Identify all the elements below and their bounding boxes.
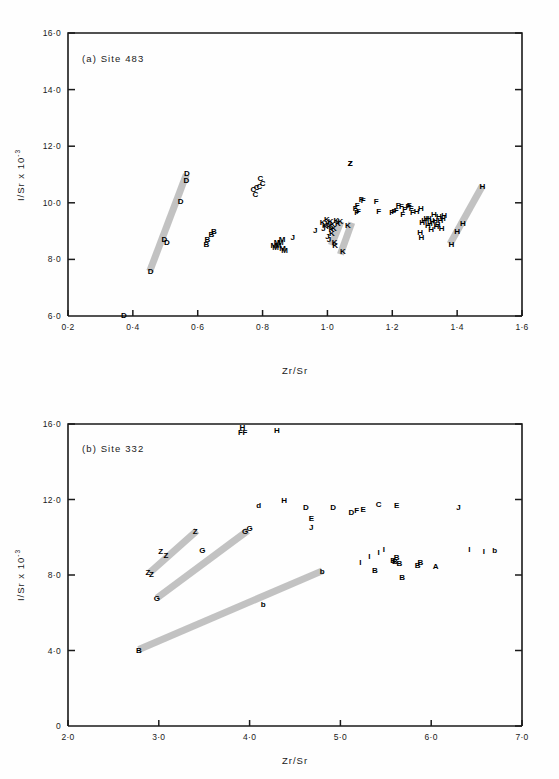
data-point-label: H bbox=[448, 240, 454, 249]
data-point-label: H bbox=[274, 426, 280, 435]
data-point-label: Z bbox=[149, 570, 154, 579]
x-tick-label: 0·2 bbox=[61, 322, 74, 332]
x-tick-label: 5·0 bbox=[334, 732, 347, 742]
x-tick-label: 4·0 bbox=[243, 732, 256, 742]
data-point-label: C bbox=[260, 179, 266, 188]
data-point-label: H bbox=[281, 496, 287, 505]
x-tick-label: 0·6 bbox=[191, 322, 204, 332]
data-point-label: E bbox=[394, 501, 400, 510]
x-tick-label: 1·4 bbox=[451, 322, 464, 332]
data-point-label: H bbox=[439, 224, 445, 233]
data-point-label: K bbox=[340, 247, 346, 256]
y-tick-label: 10·0 bbox=[43, 198, 61, 208]
data-point-label: E bbox=[360, 505, 366, 514]
data-point-label: B bbox=[399, 573, 405, 582]
panel-b-xaxis-title: Zr/Sr bbox=[282, 755, 308, 766]
data-point-label: J bbox=[291, 233, 295, 242]
x-tick-label: 2·0 bbox=[61, 732, 74, 742]
data-point-label: H bbox=[460, 219, 466, 228]
panel-a-yaxis-title-exponent: -3 bbox=[14, 149, 21, 157]
panel-b-title: (b) Site 332 bbox=[82, 443, 144, 454]
data-point-label: J bbox=[309, 523, 313, 532]
panel-site-483: 0·20·40·60·81·01·21·41·66·08·010·012·014… bbox=[0, 0, 559, 390]
data-point-label: Z bbox=[193, 527, 198, 536]
data-point-label: D bbox=[164, 238, 170, 247]
data-point-label: K bbox=[345, 221, 351, 230]
data-point-label: B bbox=[211, 227, 217, 236]
data-point-label: D bbox=[121, 311, 127, 320]
y-tick-label: 6·0 bbox=[48, 311, 61, 321]
y-tick-label: 8·0 bbox=[48, 570, 61, 580]
data-point-label: I bbox=[377, 548, 379, 557]
chart-b-svg: 2·03·04·05·06·07·004·08·012·016·0 HHFFdH… bbox=[0, 390, 559, 779]
annotation-label: Z bbox=[348, 159, 353, 168]
panel-a-xaxis-title: Zr/Sr bbox=[282, 365, 308, 376]
y-tick-label: 16·0 bbox=[43, 28, 61, 38]
x-tick-label: 7·0 bbox=[515, 732, 528, 742]
panel-b-yaxis-title-main: I/Sr x 10 bbox=[15, 557, 26, 601]
data-point-label: M bbox=[279, 235, 286, 244]
x-tick-label: 6·0 bbox=[425, 732, 438, 742]
data-point-label: I bbox=[483, 547, 485, 556]
data-point-label: H bbox=[454, 227, 460, 236]
y-tick-label: 0 bbox=[56, 721, 61, 731]
panel-a-title: (a) Site 483 bbox=[82, 53, 144, 64]
data-point-label: d bbox=[256, 501, 261, 510]
x-tick-label: 1·2 bbox=[386, 322, 399, 332]
data-point-label: H bbox=[441, 211, 447, 220]
chart-b-trend-bands bbox=[139, 531, 322, 650]
panel-a-yaxis-title-main: I/Sr x 10 bbox=[15, 157, 26, 201]
data-point-label: D bbox=[303, 503, 309, 512]
panel-b-yaxis-title: I/Sr x 10-3 bbox=[14, 549, 26, 601]
data-point-label: B bbox=[136, 646, 142, 655]
chart-a-datapoints: DDDDDDDBBBBCCCCCCMMMMMMMMJJJJJKKKKKKKKKK… bbox=[121, 159, 486, 321]
data-point-label: G bbox=[199, 546, 205, 555]
chart-a-axes: 0·20·40·60·81·01·21·41·66·08·010·012·014… bbox=[43, 28, 529, 332]
trend-band bbox=[150, 531, 197, 573]
data-point-label: K bbox=[332, 241, 338, 250]
data-point-label: b bbox=[320, 567, 325, 576]
y-tick-label: 4·0 bbox=[48, 646, 61, 656]
data-point-label: A bbox=[433, 562, 439, 571]
data-point-label: F bbox=[243, 428, 248, 437]
data-point-label: D bbox=[330, 503, 336, 512]
data-point-label: H bbox=[418, 204, 424, 213]
data-point-label: F bbox=[356, 207, 361, 216]
data-point-label: I bbox=[368, 552, 370, 561]
data-point-label: b bbox=[492, 546, 497, 555]
y-tick-label: 12·0 bbox=[43, 495, 61, 505]
svg-text:I/Sr x 10-3: I/Sr x 10-3 bbox=[14, 549, 26, 601]
x-tick-label: 0·4 bbox=[126, 322, 139, 332]
data-point-label: J bbox=[456, 503, 460, 512]
x-tick-label: 3·0 bbox=[152, 732, 165, 742]
trend-band bbox=[139, 571, 322, 650]
chart-a-svg: 0·20·40·60·81·01·21·41·66·08·010·012·014… bbox=[0, 0, 559, 390]
data-point-label: G bbox=[154, 594, 160, 603]
data-point-label: C bbox=[376, 500, 382, 509]
data-point-label: F bbox=[361, 196, 366, 205]
figure-root: 0·20·40·60·81·01·21·41·66·08·010·012·014… bbox=[0, 0, 559, 779]
data-point-label: H bbox=[480, 182, 486, 191]
y-tick-label: 16·0 bbox=[43, 419, 61, 429]
panel-b-yaxis-title-exponent: -3 bbox=[14, 549, 21, 557]
panel-site-332: 2·03·04·05·06·07·004·08·012·016·0 HHFFdH… bbox=[0, 390, 559, 779]
data-point-label: Z bbox=[164, 551, 169, 560]
data-point-label: I bbox=[383, 545, 385, 554]
data-point-label: B bbox=[397, 559, 403, 568]
data-point-label: I bbox=[468, 545, 470, 554]
data-point-label: Z bbox=[158, 547, 163, 556]
data-point-label: G bbox=[246, 524, 252, 533]
x-tick-label: 1·0 bbox=[321, 322, 334, 332]
data-point-label: b bbox=[261, 600, 266, 609]
data-point-label: B bbox=[372, 566, 378, 575]
y-tick-label: 14·0 bbox=[43, 85, 61, 95]
data-point-label: I bbox=[359, 558, 361, 567]
x-tick-label: 0·8 bbox=[256, 322, 269, 332]
data-point-label: D bbox=[184, 169, 190, 178]
trend-band bbox=[157, 531, 248, 598]
data-point-label: E bbox=[309, 514, 315, 523]
data-point-label: J bbox=[313, 226, 317, 235]
data-point-label: F bbox=[354, 506, 359, 515]
y-tick-label: 8·0 bbox=[48, 254, 61, 264]
x-tick-label: 1·6 bbox=[515, 322, 528, 332]
